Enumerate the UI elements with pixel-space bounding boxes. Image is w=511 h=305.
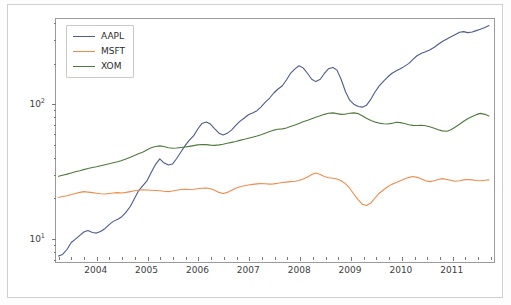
- x-tick-minor: [287, 257, 288, 260]
- x-tick-label: 2009: [339, 265, 362, 275]
- x-tick-minor: [440, 257, 441, 260]
- x-tick-minor: [491, 257, 492, 260]
- x-tick-label: 2008: [288, 265, 311, 275]
- x-tick-minor: [326, 257, 327, 260]
- legend-label: AAPL: [101, 31, 124, 42]
- x-tick-minor: [313, 257, 314, 260]
- x-tick-minor: [364, 257, 365, 260]
- x-axis-tick-labels: 20042005200620072008200920102011: [55, 265, 495, 285]
- x-tick-minor: [478, 257, 479, 260]
- x-tick-major: [148, 257, 149, 261]
- x-tick-minor: [224, 257, 225, 260]
- x-tick-minor: [122, 257, 123, 260]
- x-tick-minor: [415, 257, 416, 260]
- y-tick-label: 101: [29, 232, 45, 244]
- legend-item-xom[interactable]: XOM: [73, 61, 125, 72]
- y-tick-label: 102: [29, 97, 45, 109]
- plot-axes: AAPLMSFTXOM: [55, 18, 495, 263]
- x-tick-major: [300, 257, 301, 261]
- x-tick-minor: [59, 257, 60, 260]
- x-tick-label: 2007: [237, 265, 260, 275]
- y-axis-tick-labels: 101102: [0, 18, 52, 263]
- x-tick-label: 2005: [135, 265, 158, 275]
- series-line-xom: [59, 113, 489, 176]
- x-tick-label: 2010: [389, 265, 412, 275]
- legend-label: XOM: [101, 61, 121, 72]
- x-tick-minor: [427, 257, 428, 260]
- x-tick-minor: [262, 257, 263, 260]
- x-tick-major: [198, 257, 199, 261]
- x-tick-major: [453, 257, 454, 261]
- legend-item-aapl[interactable]: AAPL: [73, 31, 125, 42]
- x-tick-minor: [84, 257, 85, 260]
- x-tick-label: 2011: [440, 265, 463, 275]
- x-tick-minor: [465, 257, 466, 260]
- legend-swatch-icon: [73, 66, 95, 67]
- x-tick-minor: [338, 257, 339, 260]
- x-tick-minor: [135, 257, 136, 260]
- x-tick-label: 2006: [186, 265, 209, 275]
- x-axis-tick-marks: [56, 257, 494, 262]
- legend-swatch-icon: [73, 36, 95, 37]
- series-line-msft: [59, 173, 489, 206]
- figure-canvas: 101102 AAPLMSFTXOM 200420052006200720082…: [0, 0, 511, 305]
- x-tick-minor: [211, 257, 212, 260]
- x-tick-minor: [376, 257, 377, 260]
- x-tick-major: [249, 257, 250, 261]
- chart-legend[interactable]: AAPLMSFTXOM: [66, 25, 134, 78]
- x-tick-minor: [109, 257, 110, 260]
- legend-item-msft[interactable]: MSFT: [73, 46, 125, 57]
- legend-label: MSFT: [101, 46, 125, 57]
- x-tick-major: [402, 257, 403, 261]
- x-tick-minor: [275, 257, 276, 260]
- x-tick-minor: [389, 257, 390, 260]
- x-tick-label: 2004: [84, 265, 107, 275]
- x-tick-minor: [71, 257, 72, 260]
- legend-swatch-icon: [73, 51, 95, 52]
- x-tick-minor: [173, 257, 174, 260]
- x-tick-minor: [186, 257, 187, 260]
- x-tick-minor: [160, 257, 161, 260]
- x-tick-major: [351, 257, 352, 261]
- x-tick-major: [97, 257, 98, 261]
- x-tick-minor: [237, 257, 238, 260]
